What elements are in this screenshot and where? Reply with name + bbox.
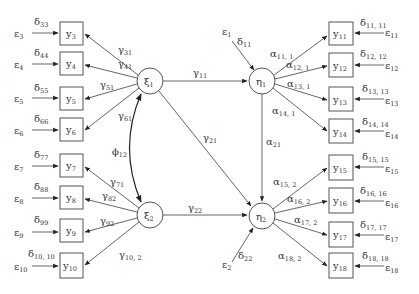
error-label-e10: ε10	[14, 261, 27, 274]
delta-label-d66: δ66	[34, 113, 48, 126]
delta-label-d1818: δ18, 18	[362, 250, 389, 263]
error-label-e18: ε18	[385, 262, 398, 275]
delta-label-d44: δ44	[34, 47, 48, 60]
path-label-g41: γ41	[118, 58, 132, 71]
disturbance-label-e2: ε2	[222, 259, 231, 272]
error-label-e7: ε7	[14, 161, 23, 174]
error-label-e14: ε14	[385, 128, 398, 141]
delta-label-d1313: δ13, 13	[362, 83, 389, 96]
error-label-e5: ε5	[14, 93, 23, 106]
path-label-phi12: ϕ12	[112, 146, 127, 159]
delta-label-d1212: δ12, 12	[360, 48, 387, 61]
path-label-g22: γ22	[188, 202, 202, 215]
path-label-g51: γ51	[100, 79, 114, 92]
structural-arrow-g21	[159, 91, 251, 206]
eta-loadings: α11, 1 α12, 1 α13, 1 α14, 1 α15, 2 α16, …	[270, 36, 327, 266]
delta-label-d1111: δ11, 11	[360, 17, 387, 30]
path-label-a182: α18, 2	[278, 250, 301, 263]
loading-arrow-g61	[85, 88, 139, 130]
path-label-a121: α12, 1	[286, 59, 309, 72]
delta-label-d1717: δ17, 17	[360, 219, 387, 232]
disturbance-label-e1: ε1	[222, 26, 231, 39]
left-indicator-group: y3 ε3 δ33 y4 ε4 δ44 y5 ε5 δ55 y6 ε6 δ66 …	[14, 16, 83, 278]
error-label-e16: ε16	[385, 197, 398, 210]
path-label-a152: α15, 2	[273, 176, 296, 189]
right-indicator-group: y11 ε11 δ11, 11 y12 ε12 δ12, 12 y13 ε13 …	[329, 17, 398, 278]
delta-label-d88: δ88	[34, 181, 48, 194]
error-label-e4: ε4	[14, 59, 23, 72]
error-label-e17: ε17	[385, 231, 398, 244]
delta-label-d1616: δ16, 16	[360, 185, 387, 198]
path-label-g61: γ61	[118, 110, 132, 123]
path-label-g31: γ31	[118, 44, 132, 57]
delta-label-d99: δ99	[34, 214, 48, 227]
error-label-e8: ε8	[14, 193, 23, 206]
error-label-e6: ε6	[14, 125, 23, 138]
path-label-g82: γ82	[102, 190, 116, 203]
path-label-a162: α16, 2	[287, 193, 310, 206]
path-label-g102: γ10, 2	[119, 249, 142, 262]
path-label-g21: γ21	[203, 132, 217, 145]
path-label-a21: α21	[266, 136, 281, 149]
delta-label-d55: δ55	[34, 82, 48, 95]
path-label-g92: γ92	[100, 215, 114, 228]
error-label-e12: ε12	[385, 60, 398, 73]
error-label-e15: ε15	[385, 163, 398, 176]
error-label-e3: ε3	[14, 28, 23, 41]
path-label-a141: α14, 1	[272, 105, 295, 118]
error-label-e11: ε11	[385, 27, 398, 40]
delta-label-d1515: δ15, 15	[362, 151, 389, 164]
error-label-e13: ε13	[385, 95, 398, 108]
sem-path-diagram: y3 ε3 δ33 y4 ε4 δ44 y5 ε5 δ55 y6 ε6 δ66 …	[0, 0, 419, 294]
error-label-e9: ε9	[14, 227, 23, 240]
delta-label-d77: δ77	[34, 149, 48, 162]
delta-label-d1414: δ14, 14	[362, 116, 389, 129]
covariance-arc-phi12	[130, 94, 142, 202]
path-label-g11: γ11	[193, 67, 207, 80]
delta-label-d1010: δ10, 10	[28, 248, 55, 261]
disturbance-label-d11: δ11	[237, 36, 251, 49]
disturbance-label-d22: δ22	[238, 250, 252, 263]
path-label-a172: α17, 2	[294, 214, 317, 227]
delta-label-d33: δ33	[34, 16, 48, 29]
